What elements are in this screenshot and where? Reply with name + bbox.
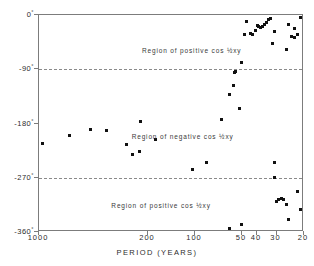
- data-point: [282, 198, 285, 201]
- y-tick-label: 0°: [0, 9, 34, 20]
- plot-frame: Region of positive cos ½xyRegion of nega…: [38, 14, 303, 231]
- data-point: [251, 33, 254, 36]
- data-point: [273, 176, 276, 179]
- data-point: [271, 42, 274, 45]
- x-tick-mark: [303, 231, 304, 235]
- data-point: [293, 36, 296, 39]
- data-point: [240, 61, 243, 64]
- data-point: [285, 48, 288, 51]
- data-point: [265, 21, 268, 24]
- data-point: [269, 17, 272, 20]
- y-tick-label: -90°: [0, 63, 34, 74]
- data-point: [232, 84, 235, 87]
- data-point: [89, 128, 92, 131]
- data-point: [293, 27, 296, 30]
- data-point: [296, 33, 299, 36]
- data-point: [245, 20, 248, 23]
- data-point: [287, 218, 290, 221]
- x-tick-mark: [276, 231, 277, 235]
- x-tick-mark: [147, 231, 148, 235]
- data-point: [105, 129, 108, 132]
- x-tick-mark: [256, 231, 257, 235]
- data-point: [139, 120, 142, 123]
- data-point: [228, 227, 231, 230]
- data-point: [238, 107, 241, 110]
- data-point: [131, 153, 134, 156]
- x-tick-mark: [194, 231, 195, 235]
- data-point: [234, 70, 237, 73]
- data-point: [205, 161, 208, 164]
- data-point: [68, 134, 71, 137]
- data-point: [254, 29, 257, 32]
- reference-line-270: [39, 178, 302, 179]
- data-point: [296, 190, 299, 193]
- data-point: [125, 143, 128, 146]
- data-point: [138, 150, 141, 153]
- chart-page: -360°-270°-180°-90°0° Region of positive…: [0, 0, 314, 266]
- x-tick-mark: [38, 231, 39, 235]
- plot-area: Region of positive cos ½xyRegion of nega…: [39, 15, 302, 230]
- data-point: [220, 118, 223, 121]
- data-point: [41, 142, 44, 145]
- data-point: [299, 16, 302, 19]
- region-annotation-2: Region of negative cos ½xy: [132, 132, 234, 139]
- x-axis-title: PERIOD (YEARS): [0, 248, 314, 257]
- data-point: [191, 168, 194, 171]
- region-annotation-3: Region of positive cos ½xy: [142, 46, 241, 53]
- data-point: [299, 208, 302, 211]
- data-point: [287, 23, 290, 26]
- reference-line-90: [39, 69, 302, 70]
- data-point: [228, 93, 231, 96]
- y-tick-label: -270°: [0, 172, 34, 183]
- x-axis: 100020010050403020: [38, 233, 303, 247]
- x-tick-mark: [241, 231, 242, 235]
- data-point: [285, 203, 288, 206]
- region-annotation-1: Region of positive cos ½xy: [111, 201, 210, 208]
- data-point: [273, 30, 276, 33]
- data-point: [273, 161, 276, 164]
- data-point: [243, 33, 246, 36]
- y-tick-label: -180°: [0, 117, 34, 128]
- data-point: [240, 223, 243, 226]
